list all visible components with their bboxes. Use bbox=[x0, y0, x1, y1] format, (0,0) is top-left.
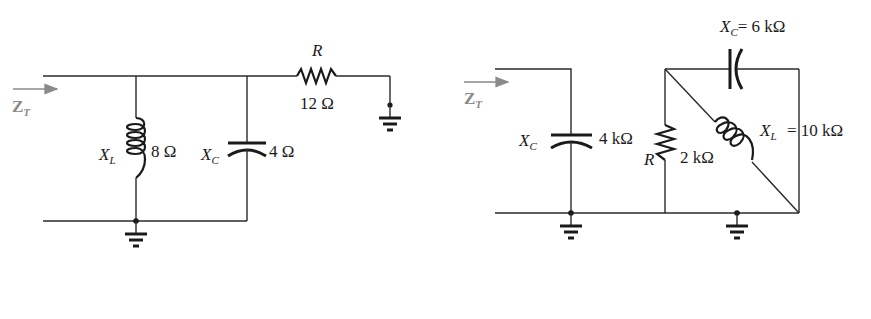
inductor-label: XL bbox=[98, 145, 116, 166]
top-wire bbox=[495, 69, 571, 134]
capacitor-icon bbox=[665, 49, 799, 89]
capacitor-icon bbox=[551, 135, 592, 213]
ground-icon bbox=[125, 221, 147, 246]
capacitor-shunt-value: 4 kΩ bbox=[599, 129, 633, 148]
inductor-icon bbox=[665, 69, 799, 213]
impedance-label: ZT bbox=[464, 89, 483, 110]
ground-icon bbox=[560, 213, 582, 238]
capacitor-value: 4 Ω bbox=[269, 142, 294, 161]
resistor-value: 2 kΩ bbox=[680, 148, 714, 167]
circuit-a: ZT XL 8 Ω XC 4 Ω R 12 Ω bbox=[12, 41, 401, 246]
capacitor-icon bbox=[228, 76, 266, 221]
ground-icon bbox=[726, 213, 748, 238]
capacitor-label: XC bbox=[200, 145, 219, 166]
inductor-icon bbox=[127, 76, 145, 221]
resistor-label: R bbox=[643, 150, 655, 169]
ground-icon bbox=[379, 118, 401, 130]
capacitor-top-label: XC= 6 kΩ bbox=[719, 17, 785, 38]
capacitor-shunt-label: XC bbox=[518, 131, 537, 152]
inductor-label: XL bbox=[759, 121, 777, 142]
inductor-value: = 10 kΩ bbox=[787, 121, 843, 140]
inductor-value: 8 Ω bbox=[151, 142, 176, 161]
circuit-diagrams: ZT XL 8 Ω XC 4 Ω R 12 Ω bbox=[0, 0, 871, 319]
resistor-icon bbox=[657, 69, 674, 213]
circuit-b: ZT XC 4 kΩ R 2 kΩ XC= 6 kΩ bbox=[464, 17, 843, 238]
resistor-label: R bbox=[311, 41, 323, 60]
impedance-label: ZT bbox=[12, 97, 31, 118]
resistor-value: 12 Ω bbox=[300, 94, 334, 113]
